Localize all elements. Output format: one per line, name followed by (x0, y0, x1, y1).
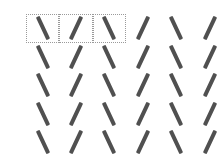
forward-slash-stroke-icon (203, 45, 217, 69)
forward-slash-stroke-icon (69, 16, 83, 40)
backslash-stroke-icon (102, 16, 116, 40)
grid-cell[interactable] (126, 43, 159, 72)
forward-slash-stroke-icon (136, 73, 150, 97)
forward-slash-stroke-icon (69, 102, 83, 126)
backslash-stroke-icon (102, 130, 116, 154)
backslash-stroke-icon (36, 73, 50, 97)
grid-cell[interactable] (93, 128, 126, 157)
grid-cell[interactable] (26, 43, 59, 72)
backslash-stroke-icon (36, 102, 50, 126)
grid-cell[interactable] (193, 100, 222, 129)
grid-cell[interactable] (160, 100, 193, 129)
forward-slash-stroke-icon (69, 73, 83, 97)
grid-cell[interactable] (160, 43, 193, 72)
forward-slash-stroke-icon (203, 16, 217, 40)
grid-cell[interactable] (93, 71, 126, 100)
backslash-stroke-icon (102, 45, 116, 69)
forward-slash-stroke-icon (136, 16, 150, 40)
backslash-stroke-icon (102, 102, 116, 126)
backslash-stroke-icon (169, 45, 183, 69)
grid-cell[interactable] (26, 71, 59, 100)
forward-slash-stroke-icon (69, 130, 83, 154)
forward-slash-stroke-icon (203, 102, 217, 126)
forward-slash-stroke-icon (136, 45, 150, 69)
grid-cell[interactable] (26, 14, 59, 43)
grid-cell[interactable] (93, 43, 126, 72)
grid-cell[interactable] (26, 100, 59, 129)
grid-cell[interactable] (160, 14, 193, 43)
slash-grid (26, 14, 222, 157)
backslash-stroke-icon (102, 73, 116, 97)
forward-slash-stroke-icon (69, 45, 83, 69)
grid-cell[interactable] (160, 128, 193, 157)
backslash-stroke-icon (36, 16, 50, 40)
grid-cell[interactable] (59, 71, 92, 100)
backslash-stroke-icon (36, 130, 50, 154)
backslash-stroke-icon (169, 130, 183, 154)
forward-slash-stroke-icon (136, 102, 150, 126)
backslash-stroke-icon (169, 73, 183, 97)
grid-cell[interactable] (126, 14, 159, 43)
forward-slash-stroke-icon (203, 73, 217, 97)
grid-cell[interactable] (193, 128, 222, 157)
grid-cell[interactable] (59, 14, 92, 43)
forward-slash-stroke-icon (203, 130, 217, 154)
grid-cell[interactable] (59, 43, 92, 72)
grid-cell[interactable] (193, 71, 222, 100)
grid-cell[interactable] (26, 128, 59, 157)
backslash-stroke-icon (169, 16, 183, 40)
grid-cell[interactable] (93, 14, 126, 43)
grid-cell[interactable] (126, 71, 159, 100)
grid-cell[interactable] (126, 128, 159, 157)
grid-cell[interactable] (193, 14, 222, 43)
backslash-stroke-icon (169, 102, 183, 126)
grid-cell[interactable] (160, 71, 193, 100)
backslash-stroke-icon (36, 45, 50, 69)
forward-slash-stroke-icon (136, 130, 150, 154)
grid-cell[interactable] (193, 43, 222, 72)
grid-cell[interactable] (93, 100, 126, 129)
grid-cell[interactable] (59, 128, 92, 157)
grid-cell[interactable] (59, 100, 92, 129)
grid-cell[interactable] (126, 100, 159, 129)
